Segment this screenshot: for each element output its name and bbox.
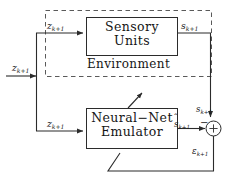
adaptation-arrow [128, 93, 142, 108]
emulator-box [87, 109, 178, 149]
diagram-canvas [0, 0, 237, 180]
sensory-units-box [87, 18, 178, 56]
block-diagram-figure: Sensory Units Environment Neural−Net Emu… [0, 0, 237, 180]
sensory-output-path [178, 33, 211, 117]
